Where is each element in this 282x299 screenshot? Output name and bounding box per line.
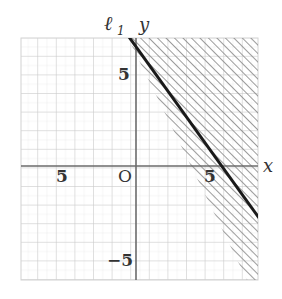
x-tick-label-positive-5: 5 [204,166,216,186]
x-axis-label: x [263,155,273,176]
graph-figure: ℓ 1 y x O 5 5 5 −5 [0,0,282,299]
y-tick-label-positive-5: 5 [118,64,130,84]
y-axis-label: y [138,14,150,35]
coordinate-plane-svg: ℓ 1 y x O 5 5 5 −5 [0,0,282,299]
x-tick-label-negative-5: 5 [56,166,68,186]
line-label-subscript: 1 [117,24,125,38]
line-label-l: ℓ [104,11,113,35]
origin-label: O [118,166,132,186]
y-tick-label-negative-5: −5 [107,250,133,270]
